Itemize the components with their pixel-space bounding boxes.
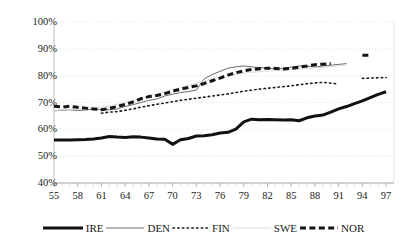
x-axis-tick-label: 91 [328,190,350,201]
legend-item-nor[interactable]: NOR [298,217,365,239]
legend-swatch-line [298,222,340,234]
legend-item-ire[interactable]: IRE [41,217,105,239]
x-axis-tick-label: 55 [43,190,65,201]
legend-swatch-line [171,222,211,234]
x-axis-tick-label: 67 [138,190,160,201]
legend-item-label: IRE [85,223,105,234]
x-axis-tick-label: 76 [209,190,231,201]
x-axis-tick-label: 85 [280,190,302,201]
plot-area [0,0,406,205]
x-axis-tick-label: 94 [351,190,373,201]
x-axis-tick-label: 61 [90,190,112,201]
legend-swatch-line [41,222,85,234]
y-axis-tick-label: 80% [11,71,57,81]
y-axis-tick-label: 100% [11,17,57,27]
legend-item-den[interactable]: DEN [104,217,171,239]
x-axis-tick-label: 88 [304,190,326,201]
legend-item-label: DEN [146,223,171,234]
x-axis-tick-label: 70 [162,190,184,201]
legend-swatch-line [104,222,146,234]
y-axis-tick-label: 40% [11,178,57,188]
chart-container: IREDENFINSWENOR 40%50%60%70%80%90%100%55… [0,0,406,249]
x-axis-tick-label: 82 [256,190,278,201]
y-axis-tick-label: 70% [11,98,57,108]
chart-svg [0,0,406,205]
legend-item-swe[interactable]: SWE [231,217,298,239]
chart-legend: IREDENFINSWENOR [0,216,406,240]
legend-item-fin[interactable]: FIN [171,217,231,239]
x-axis-tick-label: 79 [233,190,255,201]
x-axis-tick-label: 58 [67,190,89,201]
legend-swatch-line [231,222,273,234]
y-axis-tick-label: 50% [11,151,57,161]
legend-item-label: FIN [211,223,231,234]
x-axis-tick-label: 73 [185,190,207,201]
legend-item-label: SWE [273,223,298,234]
y-axis-tick-label: 60% [11,124,57,134]
x-axis-tick-label: 97 [375,190,397,201]
y-axis-tick-label: 90% [11,44,57,54]
legend-item-label: NOR [340,223,365,234]
x-axis-tick-label: 64 [114,190,136,201]
